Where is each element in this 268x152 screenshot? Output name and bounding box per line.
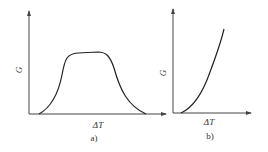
x-label-b: ΔT <box>203 117 215 127</box>
curve-b <box>181 29 224 113</box>
x-label-a: ΔT <box>92 120 104 130</box>
curve-a <box>39 52 146 114</box>
panel-b: G ΔT b) <box>158 9 251 141</box>
y-label-b: G <box>158 69 168 76</box>
panel-a: G ΔT a) <box>14 11 166 143</box>
caption-a: a) <box>91 133 98 143</box>
y-label-a: G <box>14 66 24 73</box>
caption-b: b) <box>206 131 214 141</box>
diagram: G ΔT a) G ΔT b) <box>0 0 268 152</box>
